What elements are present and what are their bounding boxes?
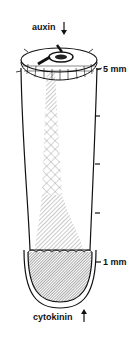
cytokinin-label: cytokinin — [33, 312, 73, 322]
transport-column — [34, 70, 84, 252]
scale-5mm-label: 5 mm — [103, 64, 127, 74]
basal-cup — [24, 250, 96, 308]
apex-cap — [16, 45, 102, 80]
auxin-label: auxin — [32, 22, 56, 32]
down-arrow-icon — [61, 22, 67, 35]
scale-1mm-label: 1 mm — [103, 257, 127, 267]
up-arrow-icon — [81, 309, 87, 322]
diagram-canvas — [0, 0, 135, 338]
